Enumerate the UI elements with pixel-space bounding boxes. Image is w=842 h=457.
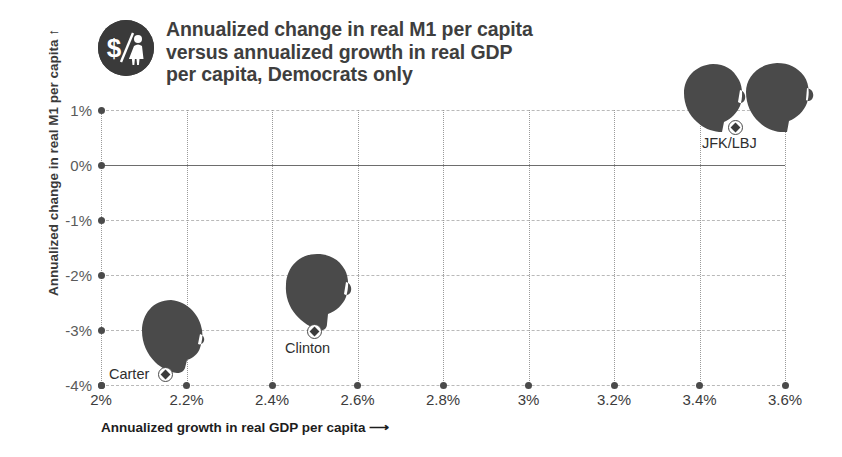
x-tick-label: 2%	[90, 391, 112, 408]
point-label-carter: Carter	[109, 366, 149, 382]
y-tick-label: -2%	[65, 267, 92, 284]
page-title: Annualized change in real M1 per capita …	[166, 18, 533, 86]
gridline-x-2-0	[101, 110, 102, 385]
axis-dot	[269, 382, 276, 389]
title-line-1: Annualized change in real M1 per capita	[166, 18, 533, 41]
x-tick-label: 3.4%	[682, 391, 716, 408]
data-point-carter[interactable]	[158, 367, 173, 382]
title-line-2: versus annualized growth in real GDP	[166, 41, 533, 64]
plot-area: Carter Clinton JFK/LBJ	[101, 110, 785, 385]
data-point-jfk-lbj[interactable]	[728, 120, 743, 135]
x-tick-label: 3%	[518, 391, 540, 408]
gridline-x-3-0	[529, 110, 530, 385]
gridline-x-2-4	[272, 110, 273, 385]
chart-header: $ Annualized change in real M1 per capit…	[98, 18, 533, 86]
point-label-jfk-lbj: JFK/LBJ	[702, 135, 757, 151]
gridline-x-3-4	[700, 110, 701, 385]
axis-dot	[354, 382, 361, 389]
data-point-clinton[interactable]	[307, 324, 322, 339]
axis-dot	[183, 382, 190, 389]
axis-dot	[98, 107, 105, 114]
carter-head-silhouette	[137, 298, 209, 376]
y-tick-label: 1%	[70, 102, 92, 119]
axis-dot	[782, 382, 789, 389]
y-tick-label: -1%	[65, 212, 92, 229]
axis-dot	[440, 382, 447, 389]
dollar-per-person-icon: $	[98, 20, 154, 76]
y-tick-label: -3%	[65, 322, 92, 339]
axis-dot	[611, 382, 618, 389]
gridline-x-3-2	[614, 110, 615, 385]
axis-dot	[525, 382, 532, 389]
y-axis-ticks: 1% 0% -1% -2% -3% -4%	[40, 110, 92, 385]
axis-dot	[98, 162, 105, 169]
axis-dot	[98, 327, 105, 334]
axis-dot	[98, 272, 105, 279]
jfk-lbj-heads-silhouette	[679, 62, 819, 132]
axis-dot	[98, 382, 105, 389]
x-tick-label: 3.6%	[768, 391, 802, 408]
axis-dot	[696, 382, 703, 389]
scatter-chart: $ Annualized change in real M1 per capit…	[0, 0, 842, 457]
gridline-x-3-6	[785, 110, 786, 385]
x-axis-title: Annualized growth in real GDP per capita…	[101, 419, 389, 435]
x-tick-label: 3.2%	[597, 391, 631, 408]
title-line-3: per capita, Democrats only	[166, 63, 533, 86]
x-tick-label: 2.4%	[255, 391, 289, 408]
gridline-x-2-8	[443, 110, 444, 385]
clinton-head-silhouette	[281, 252, 361, 334]
gridline-x-2-6	[358, 110, 359, 385]
svg-text:$: $	[107, 33, 122, 63]
axis-dot	[98, 217, 105, 224]
y-tick-label: -4%	[65, 377, 92, 394]
y-tick-label: 0%	[70, 157, 92, 174]
x-tick-label: 2.8%	[426, 391, 460, 408]
x-axis-ticks: 2% 2.2% 2.4% 2.6% 2.8% 3% 3.2% 3.4% 3.6%	[101, 391, 785, 413]
x-tick-label: 2.6%	[340, 391, 374, 408]
x-tick-label: 2.2%	[169, 391, 203, 408]
point-label-clinton: Clinton	[285, 340, 330, 356]
